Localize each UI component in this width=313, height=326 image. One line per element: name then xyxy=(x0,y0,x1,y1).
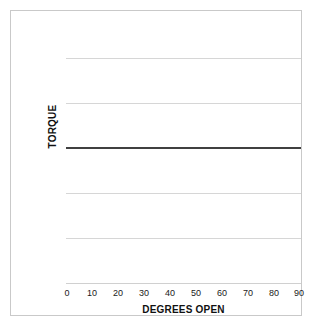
chart-figure: 0 10 20 30 40 50 60 70 80 90 DEGREES OPE… xyxy=(0,0,313,326)
x-tick-label: 90 xyxy=(294,287,304,300)
gridline-5 xyxy=(66,58,301,59)
x-tick-label: 30 xyxy=(139,287,149,300)
x-tick-label: 80 xyxy=(269,287,279,300)
x-tick-label: 40 xyxy=(165,287,175,300)
x-tick-label: 70 xyxy=(243,287,253,300)
x-tick-label: 0 xyxy=(64,287,69,300)
figure-border: 0 10 20 30 40 50 60 70 80 90 DEGREES OPE… xyxy=(10,10,302,316)
x-axis-title: DEGREES OPEN xyxy=(66,304,301,315)
gridline-2 xyxy=(66,193,301,194)
x-tick-label: 10 xyxy=(87,287,97,300)
x-axis-line xyxy=(66,283,301,284)
plot-area xyxy=(66,47,301,283)
gridline-4 xyxy=(66,103,301,104)
x-tick-label: 60 xyxy=(217,287,227,300)
x-tick-label: 20 xyxy=(113,287,123,300)
x-tick-label: 50 xyxy=(191,287,201,300)
y-axis-title: TORQUE xyxy=(47,92,58,162)
gridline-1 xyxy=(66,238,301,239)
series-line-torque xyxy=(66,147,301,149)
x-axis-ticklabels: 0 10 20 30 40 50 60 70 80 90 xyxy=(66,287,301,301)
